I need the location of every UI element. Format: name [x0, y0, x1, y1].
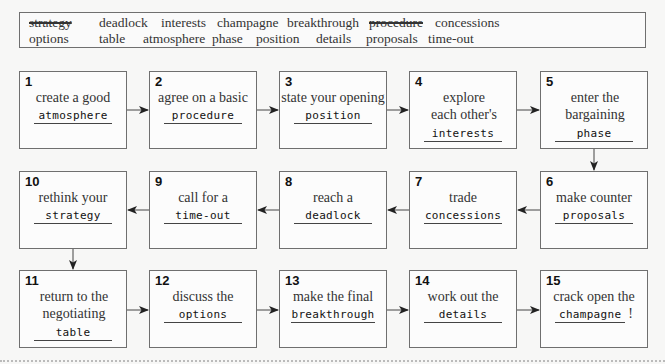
answer-blank[interactable]: proposals	[555, 208, 633, 224]
step-box-10: 10 rethink your strategy	[19, 171, 127, 249]
answer-blank[interactable]: options	[164, 307, 242, 323]
step-text: make counter	[541, 189, 647, 206]
step-text: discuss the	[150, 288, 256, 305]
step-text: explore each other's	[429, 89, 499, 123]
step-text: state your opening	[280, 89, 386, 106]
step-number: 12	[155, 273, 169, 288]
answer-blank[interactable]: procedure	[164, 108, 242, 124]
step-box-8: 8 reach a deadlock	[279, 171, 387, 249]
step-number: 6	[546, 174, 553, 189]
word-bank-item: champagne	[217, 15, 278, 31]
word-bank-item: strategy	[29, 15, 72, 31]
word-bank-item: time-out	[428, 31, 474, 47]
word-bank-item: breakthrough	[287, 15, 359, 31]
word-bank-item: atmosphere	[143, 31, 205, 47]
step-number: 9	[155, 174, 162, 189]
step-text: make the final	[280, 288, 386, 305]
word-bank-item: position	[256, 31, 300, 47]
step-text: create a good	[20, 89, 126, 106]
word-bank: strategy deadlock interests champagne br…	[19, 12, 646, 48]
step-number: 1	[25, 74, 32, 89]
step-box-2: 2 agree on a basic procedure	[149, 71, 257, 149]
step-number: 15	[546, 273, 560, 288]
step-box-9: 9 call for a time-out	[149, 171, 257, 249]
word-bank-item: details	[316, 31, 351, 47]
step-box-4: 4 explore each other's interests	[409, 71, 517, 149]
dotted-divider	[0, 360, 665, 362]
step-box-11: 11 return to the negotiating table	[19, 270, 127, 348]
step-text: crack open the	[541, 288, 647, 305]
step-number: 7	[415, 174, 422, 189]
word-bank-item: table	[99, 31, 125, 47]
step-number: 8	[285, 174, 292, 189]
exclamation: !	[628, 306, 633, 321]
step-text: call for a	[150, 189, 256, 206]
answer-blank[interactable]: breakthrough	[291, 307, 374, 323]
step-text: trade	[410, 189, 516, 206]
step-box-12: 12 discuss the options	[149, 270, 257, 348]
answer-blank[interactable]: deadlock	[294, 208, 372, 224]
step-number: 3	[285, 74, 292, 89]
answer-blank[interactable]: champagne	[555, 307, 625, 323]
step-box-7: 7 trade concessions	[409, 171, 517, 249]
step-box-15: 15 crack open the champagne!	[540, 270, 648, 348]
word-bank-item: proposals	[366, 31, 418, 47]
word-bank-item: phase	[212, 31, 243, 47]
step-text: return to the negotiating	[32, 288, 116, 322]
step-box-3: 3 state your opening position	[279, 71, 387, 149]
answer-blank[interactable]: strategy	[34, 208, 112, 224]
step-number: 13	[285, 273, 299, 288]
step-text: agree on a basic	[150, 89, 256, 106]
step-number: 4	[415, 74, 422, 89]
step-box-1: 1 create a good atmosphere	[19, 71, 127, 149]
answer-blank[interactable]: details	[424, 307, 502, 323]
step-box-14: 14 work out the details	[409, 270, 517, 348]
step-text: rethink your	[20, 189, 126, 206]
step-box-5: 5 enter the bargaining phase	[540, 71, 648, 149]
answer-blank[interactable]: time-out	[164, 208, 242, 224]
answer-blank[interactable]: interests	[424, 126, 502, 142]
word-bank-item: options	[29, 31, 69, 47]
step-number: 2	[155, 74, 162, 89]
word-bank-item: interests	[161, 15, 206, 31]
step-number: 10	[25, 174, 39, 189]
answer-blank[interactable]: phase	[555, 126, 633, 142]
word-bank-item: procedure	[369, 15, 423, 31]
answer-blank[interactable]: position	[294, 108, 372, 124]
word-bank-item: deadlock	[99, 15, 148, 31]
answer-blank[interactable]: concessions	[424, 208, 502, 224]
answer-blank[interactable]: atmosphere	[34, 108, 112, 124]
step-box-13: 13 make the final breakthrough	[279, 270, 387, 348]
step-text: reach a	[280, 189, 386, 206]
step-number: 14	[415, 273, 429, 288]
step-text: work out the	[410, 288, 516, 305]
word-bank-item: concessions	[435, 15, 500, 31]
answer-blank[interactable]: table	[34, 325, 112, 341]
step-text: enter the bargaining	[555, 89, 635, 123]
step-box-6: 6 make counter proposals	[540, 171, 648, 249]
step-number: 11	[25, 273, 39, 288]
step-number: 5	[546, 74, 553, 89]
